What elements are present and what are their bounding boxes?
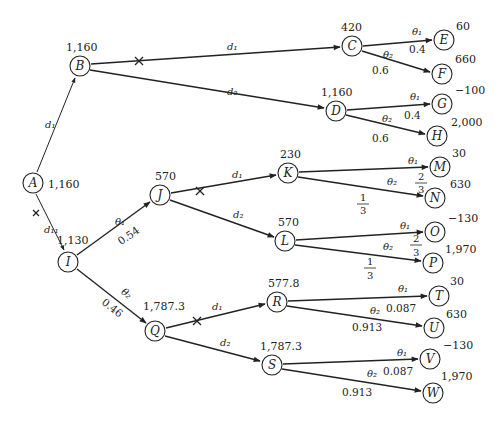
svg-text:B: B — [75, 59, 85, 73]
fraction-2-3: 2 3 — [410, 233, 422, 258]
theta2-label: θ₂ — [382, 113, 392, 124]
fraction-2-3: 2 3 — [415, 171, 427, 195]
node-J: J — [150, 185, 170, 205]
theta2-label: θ₂ — [367, 368, 377, 379]
node-S: S — [262, 355, 282, 375]
node-L: L — [275, 231, 295, 251]
value-D: 1,160 — [321, 86, 353, 99]
svg-text:1: 1 — [367, 256, 373, 267]
theta1-label: θ₁ — [115, 216, 125, 227]
svg-text:R: R — [271, 295, 281, 309]
edge-label-d1: d₁ — [227, 41, 237, 52]
edge-S-V — [283, 359, 418, 364]
value-T: 30 — [450, 275, 464, 288]
cross-icon — [33, 210, 39, 216]
prob-label: 0.46 — [100, 296, 126, 320]
node-B: B — [70, 56, 90, 76]
theta2-label: θ₂ — [383, 49, 393, 60]
value-M: 30 — [452, 147, 466, 160]
theta2-label: θ₂ — [383, 241, 393, 252]
theta1-label: θ₁ — [408, 155, 418, 166]
edge-B-C — [91, 47, 340, 64]
value-A: 1,160 — [48, 178, 80, 191]
edge-label-d1: d₁ — [45, 119, 55, 130]
svg-text:1: 1 — [360, 192, 366, 203]
value-E: 60 — [456, 20, 470, 33]
node-E: E — [434, 30, 454, 50]
node-D: D — [326, 101, 346, 121]
svg-text:3: 3 — [367, 270, 373, 281]
value-B: 1,160 — [66, 41, 98, 54]
svg-text:V: V — [426, 352, 436, 366]
node-R: R — [267, 292, 287, 312]
svg-text:E: E — [439, 33, 449, 47]
node-Q: Q — [145, 321, 165, 341]
prob-label: 0.087 — [383, 365, 413, 377]
edge-label-d2: d₂ — [220, 337, 230, 348]
svg-text:W: W — [427, 386, 441, 400]
node-C: C — [342, 36, 362, 56]
prob-label: 0.54 — [115, 224, 141, 247]
edge-B-D — [90, 70, 324, 108]
svg-text:U: U — [429, 321, 440, 335]
prob-label: 0.087 — [386, 302, 416, 314]
value-H: 2,000 — [451, 116, 483, 129]
node-T: T — [429, 286, 449, 306]
prob-label: 0.913 — [342, 386, 372, 398]
svg-text:Q: Q — [150, 324, 160, 338]
node-N: N — [425, 188, 445, 208]
value-O: −130 — [448, 212, 478, 225]
node-V: V — [420, 349, 440, 369]
prob-label: 0.6 — [372, 132, 389, 144]
svg-text:K: K — [283, 166, 294, 180]
edge-I-J — [77, 202, 150, 255]
value-S: 1,787.3 — [260, 340, 302, 353]
node-O: O — [425, 222, 445, 242]
svg-text:S: S — [268, 358, 276, 372]
node-W: W — [423, 383, 443, 403]
value-U: 630 — [446, 308, 467, 321]
value-R: 577.8 — [268, 277, 300, 290]
edge-J-K — [171, 175, 276, 193]
svg-text:O: O — [430, 225, 440, 239]
edge-R-T — [288, 296, 427, 301]
value-V: −130 — [443, 339, 473, 352]
svg-text:G: G — [437, 97, 447, 111]
edge-K-M — [299, 167, 428, 172]
value-W: 1,970 — [441, 370, 473, 383]
svg-text:A: A — [28, 176, 38, 190]
theta1-label: θ₁ — [410, 91, 420, 102]
theta1-label: θ₁ — [400, 220, 410, 231]
fraction-1-3: 1 3 — [357, 192, 369, 216]
svg-text:3: 3 — [418, 184, 424, 195]
pruned-markers — [33, 57, 204, 325]
edge-label-d1: d₁ — [232, 169, 242, 180]
node-I: I — [58, 252, 78, 272]
node-H: H — [427, 126, 447, 146]
value-I: 1,130 — [57, 234, 89, 247]
edge-L-O — [296, 232, 423, 240]
svg-text:2: 2 — [418, 171, 424, 182]
theta2-label: θ₂ — [370, 305, 380, 316]
decision-tree-diagram: d₁ d₁₁ d₁ d₂ d₁ d₂ d₁ d₂ θ₁ 0.4 θ₂ 0.6 θ… — [0, 0, 503, 424]
svg-text:T: T — [435, 289, 444, 303]
value-N: 630 — [450, 178, 471, 191]
node-G: G — [432, 94, 452, 114]
edge-A-B — [37, 78, 75, 172]
value-P: 1,970 — [445, 243, 477, 256]
theta1-label: θ₁ — [398, 283, 408, 294]
value-C: 420 — [341, 21, 362, 34]
edge-Q-S — [165, 336, 260, 361]
prob-label: 0.6 — [372, 64, 389, 76]
prob-label: 0.4 — [409, 43, 426, 55]
node-K: K — [278, 163, 298, 183]
node-U: U — [424, 318, 444, 338]
svg-text:D: D — [330, 104, 341, 118]
svg-text:P: P — [428, 256, 438, 270]
edge-L-P — [295, 245, 421, 261]
svg-text:I: I — [65, 255, 71, 269]
svg-text:3: 3 — [413, 247, 419, 258]
prob-label: 0.913 — [352, 321, 382, 333]
svg-text:C: C — [347, 39, 356, 53]
svg-text:2: 2 — [413, 233, 419, 244]
